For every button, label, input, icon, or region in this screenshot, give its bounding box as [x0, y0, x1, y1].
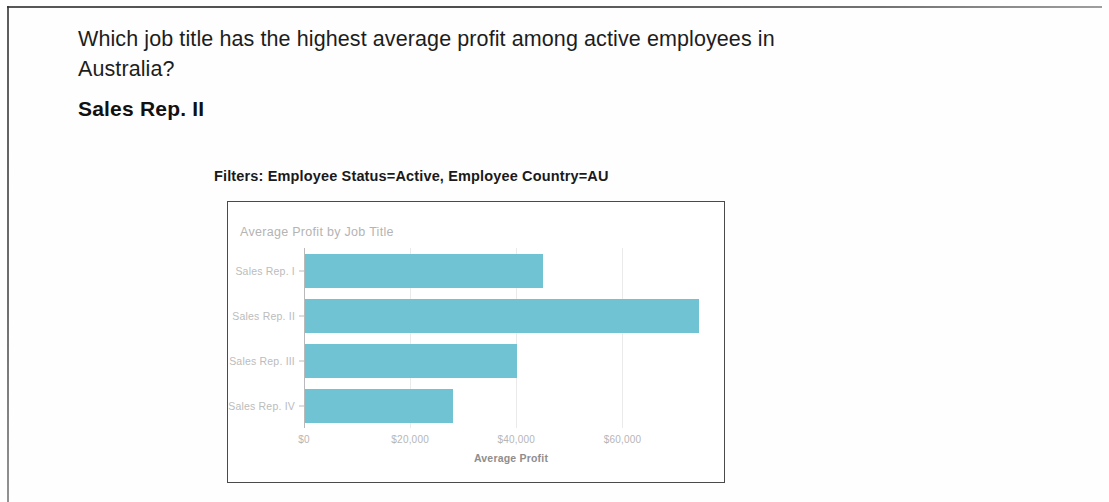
page-border-left — [7, 6, 9, 502]
question-answer-block: Which job title has the highest average … — [78, 24, 778, 122]
category-label: Sales Rep. III — [229, 355, 295, 367]
bar[interactable] — [305, 344, 517, 378]
category-tick — [299, 315, 304, 316]
category-tick — [299, 405, 304, 406]
category-label: Sales Rep. IV — [228, 400, 295, 412]
bar[interactable] — [305, 254, 543, 288]
x-axis-title: Average Profit — [304, 452, 718, 464]
category-tick — [299, 270, 304, 271]
x-tick-label: $0 — [298, 434, 310, 445]
x-tick-label: $60,000 — [604, 434, 642, 445]
scanned-page: Which job title has the highest average … — [0, 0, 1109, 502]
bar-row: Sales Rep. II — [304, 299, 718, 333]
answer-text: Sales Rep. II — [78, 96, 778, 122]
bar[interactable] — [305, 389, 453, 423]
x-tick-label: $40,000 — [498, 434, 536, 445]
bar[interactable] — [305, 299, 699, 333]
chart-title: Average Profit by Job Title — [240, 225, 394, 239]
category-tick — [299, 360, 304, 361]
bar-row: Sales Rep. IV — [304, 389, 718, 423]
bar-row: Sales Rep. III — [304, 344, 718, 378]
filters-caption: Filters: Employee Status=Active, Employe… — [214, 168, 609, 184]
category-label: Sales Rep. I — [235, 265, 295, 277]
plot-area: Sales Rep. ISales Rep. IISales Rep. IIIS… — [304, 248, 718, 428]
bar-row: Sales Rep. I — [304, 254, 718, 288]
category-label: Sales Rep. II — [232, 310, 295, 322]
x-tick-label: $20,000 — [391, 434, 429, 445]
chart-frame: Average Profit by Job Title Sales Rep. I… — [227, 201, 725, 483]
question-text: Which job title has the highest average … — [78, 24, 778, 84]
page-border-top — [7, 6, 1102, 8]
